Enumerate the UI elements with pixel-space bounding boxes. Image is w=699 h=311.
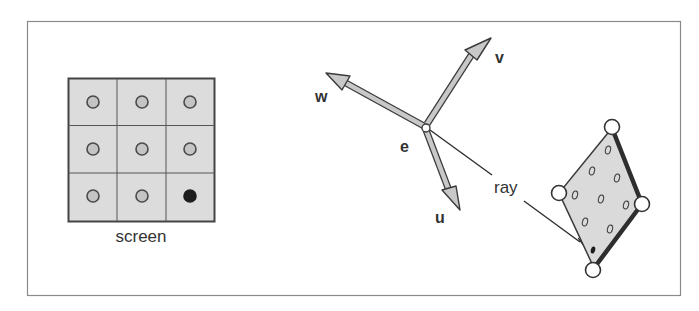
pixel-sample-dot [136,143,148,155]
polygon-vertex [605,120,620,135]
ray-casting-diagram: screen w v u e ray [0,0,699,311]
polygon-vertex [586,263,601,278]
pixel-sample-dot [136,190,148,202]
polygon-vertex [552,186,567,201]
v-axis-label: v [495,49,504,66]
screen-label: screen [115,227,166,246]
pixel-sample-dot [184,96,196,108]
ray-label: ray [494,178,518,197]
selected-pixel-dot [184,190,196,202]
polygon-vertex [635,197,650,212]
pixel-sample-dot [184,143,196,155]
pixel-sample-dot [136,96,148,108]
pixel-sample-dot [87,190,99,202]
pixel-sample-dot [87,143,99,155]
screen-grid [69,79,215,222]
w-axis-label: w [314,88,328,105]
u-axis-label: u [435,209,445,226]
pixel-sample-dot [87,96,99,108]
eye-label: e [400,138,409,155]
eye-point-icon [422,124,430,132]
